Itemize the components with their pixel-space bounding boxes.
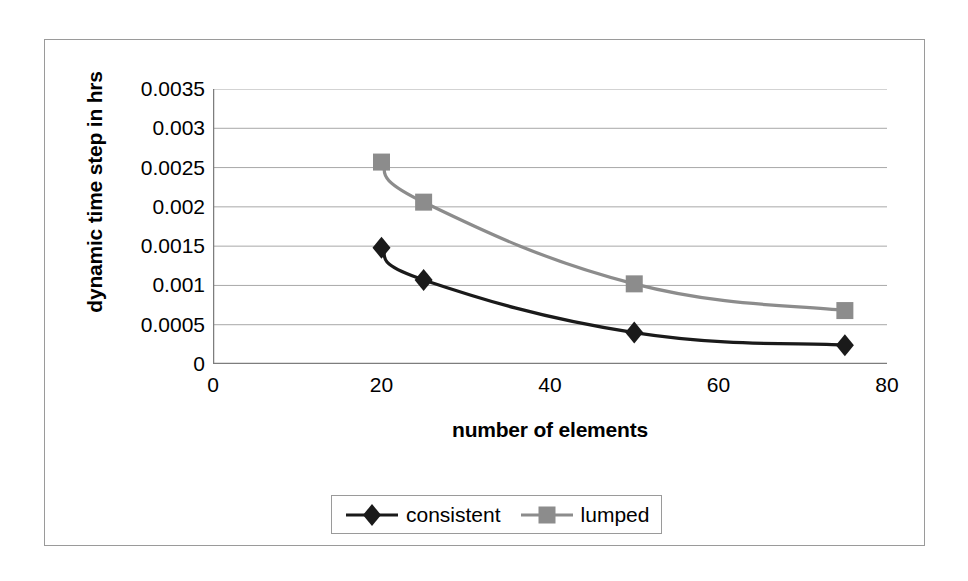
legend-entry-consistent[interactable]: consistent [344,504,501,526]
data-series-consistent [372,237,853,356]
y-axis-tick-label: 0.0005 [141,314,205,335]
legend-key-square-icon [519,504,575,526]
x-axis-tick-label: 60 [689,373,749,397]
plot-svg [213,89,887,364]
y-axis-tick-label: 0.003 [152,117,205,138]
y-axis-tick-label: 0.002 [152,196,205,217]
x-axis-tick-label: 40 [520,373,580,397]
data-point-marker-square [626,275,643,292]
data-point-marker-diamond [363,504,381,526]
legend-key-diamond-icon [344,504,400,526]
x-axis-tick-label: 80 [857,373,917,397]
chart-screenshot: dynamic time step in hrs 00.00050.0010.0… [0,0,968,581]
chart-frame: dynamic time step in hrs 00.00050.0010.0… [44,39,925,546]
data-point-marker-square [836,302,853,319]
y-axis-tick-label: 0.001 [152,274,205,295]
legend-entry-lumped[interactable]: lumped [519,504,650,526]
x-axis-tick-label: 0 [183,373,243,397]
chart-legend: consistentlumped [331,495,662,534]
y-axis-tick-label: 0.0015 [141,235,205,256]
data-point-marker-square [415,194,432,211]
y-axis-tick-label: 0 [193,353,205,374]
data-series-lumped [373,154,853,319]
data-point-marker-diamond [372,237,390,259]
data-point-marker-diamond [836,334,854,356]
x-axis-tick-label: 20 [352,373,412,397]
x-axis-title: number of elements [213,418,887,442]
y-axis-tick-label: 0.0035 [141,78,205,99]
axis-lines [213,89,887,364]
data-point-marker-diamond [415,269,433,291]
x-axis-tick-labels: 020406080 [213,373,887,403]
data-point-marker-square [538,506,555,523]
y-axis-tick-labels: 00.00050.0010.00150.0020.00250.0030.0035 [45,89,205,364]
data-point-marker-square [373,154,390,171]
plot-area [213,89,887,364]
legend-label: lumped [581,504,650,526]
series-line [382,248,845,345]
legend-label: consistent [406,504,501,526]
data-series-layer [372,154,853,357]
y-axis-tick-label: 0.0025 [141,157,205,178]
gridlines [213,89,887,364]
